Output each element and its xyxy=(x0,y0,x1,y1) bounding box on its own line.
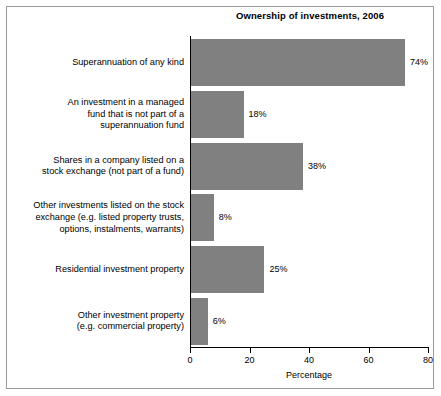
bar[interactable] xyxy=(190,143,303,190)
category-label-row: Other investment property (e.g. commerci… xyxy=(12,295,184,347)
bar-row: 25% xyxy=(190,244,428,296)
category-label-shares: Shares in a company listed on a stock ex… xyxy=(12,155,184,178)
category-label-other-property: Other investment property (e.g. commerci… xyxy=(12,310,184,333)
category-label-row: Superannuation of any kind xyxy=(12,37,184,89)
y-axis-line xyxy=(190,36,191,348)
x-axis-tick-label: 60 xyxy=(363,355,373,365)
category-label-row: An investment in a managed fund that is … xyxy=(12,89,184,141)
category-label-managed-fund: An investment in a managed fund that is … xyxy=(12,97,184,132)
category-label-row: Other investments listed on the stock ex… xyxy=(12,192,184,244)
x-axis-tick xyxy=(250,348,251,353)
category-label-line: Shares in a company listed on a xyxy=(53,155,184,165)
category-label-other-listed: Other investments listed on the stock ex… xyxy=(12,200,184,235)
category-label-line: superannuation fund xyxy=(100,120,184,130)
category-label-residential: Residential investment property xyxy=(12,264,184,276)
category-axis-labels: Superannuation of any kind An investment… xyxy=(12,37,184,347)
x-axis-tick xyxy=(369,348,370,353)
bar-row: 74% xyxy=(190,37,428,89)
x-axis-tick-label: 20 xyxy=(244,355,254,365)
bar-row: 18% xyxy=(190,89,428,141)
bar[interactable] xyxy=(190,91,244,138)
category-label-line: stock exchange (not part of a fund) xyxy=(42,166,184,176)
bar-row: 8% xyxy=(190,192,428,244)
category-label-line: options, instalments, warrants) xyxy=(59,224,184,234)
category-label-line: Other investment property xyxy=(78,310,184,320)
x-axis-tick xyxy=(428,348,429,353)
bar-row: 38% xyxy=(190,140,428,192)
x-axis-tick-label: 0 xyxy=(187,355,192,365)
x-axis-tick xyxy=(309,348,310,353)
bar-value-label: 25% xyxy=(269,265,287,274)
x-axis-tick-label: 40 xyxy=(304,355,314,365)
category-label-line: Superannuation of any kind xyxy=(72,57,184,67)
plot-area: 74%18%38%8%25%6% xyxy=(190,37,428,347)
bar[interactable] xyxy=(190,194,214,241)
category-label-row: Residential investment property xyxy=(12,244,184,296)
bar-value-label: 38% xyxy=(308,162,326,171)
category-label-superannuation: Superannuation of any kind xyxy=(12,57,184,69)
bar[interactable] xyxy=(190,246,264,293)
x-axis-title: Percentage xyxy=(190,370,428,380)
x-axis-tick xyxy=(190,348,191,353)
chart-figure: Ownership of investments, 2006 Superannu… xyxy=(0,0,441,396)
bar-value-label: 8% xyxy=(219,213,232,222)
category-label-line: Residential investment property xyxy=(55,264,184,274)
bar[interactable] xyxy=(190,39,405,86)
category-label-line: exchange (e.g. listed property trusts, xyxy=(35,212,184,222)
bar-value-label: 74% xyxy=(410,58,428,67)
bar-row: 6% xyxy=(190,295,428,347)
category-label-line: (e.g. commercial property) xyxy=(77,321,184,331)
category-label-line: An investment in a managed xyxy=(68,97,184,107)
category-label-row: Shares in a company listed on a stock ex… xyxy=(12,140,184,192)
bar-value-label: 18% xyxy=(249,110,267,119)
chart-title: Ownership of investments, 2006 xyxy=(190,10,430,21)
bar-value-label: 6% xyxy=(213,317,226,326)
bar[interactable] xyxy=(190,298,208,345)
category-label-line: Other investments listed on the stock xyxy=(33,200,184,210)
category-label-line: fund that is not part of a xyxy=(87,109,184,119)
x-axis-tick-label: 80 xyxy=(423,355,433,365)
